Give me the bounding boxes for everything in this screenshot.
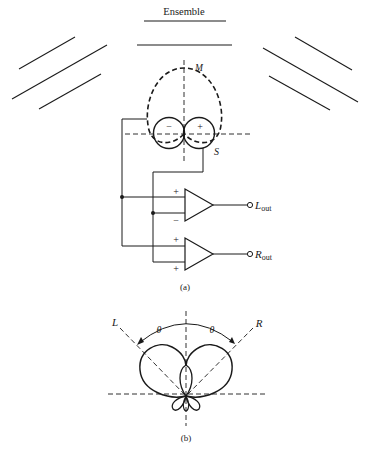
left-main-lobe xyxy=(140,345,186,397)
svg-text:+: + xyxy=(173,186,179,197)
caption-b: (b) xyxy=(181,433,192,443)
matrix-wiring xyxy=(122,119,203,262)
ensemble-label: Ensemble xyxy=(163,6,205,17)
l-out-terminal xyxy=(247,202,252,207)
ms-stereo-diagram: Ensemble − + M S + − xyxy=(0,0,368,449)
left-axis-b xyxy=(120,328,186,396)
r-out-terminal xyxy=(247,251,252,256)
side-label: S xyxy=(214,146,219,157)
amplifier-left: + − Lout xyxy=(173,186,272,226)
theta-left: θ xyxy=(157,324,162,335)
r-out-label: Rout xyxy=(254,248,273,262)
junction-dot-mid xyxy=(120,195,124,199)
caption-a: (a) xyxy=(180,282,190,292)
axis-label-l: L xyxy=(111,316,118,328)
svg-text:+: + xyxy=(173,234,179,245)
junction-dot-side xyxy=(151,211,155,215)
ensemble-right-rows xyxy=(263,37,358,110)
side-lobe-positive-sign: + xyxy=(197,121,203,132)
axis-label-r: R xyxy=(255,317,263,329)
theta-right: θ xyxy=(210,324,215,335)
svg-text:+: + xyxy=(173,263,179,274)
l-out-label: Lout xyxy=(254,199,272,213)
right-axis-b xyxy=(186,328,253,396)
resulting-stereo-pattern: θ θ L R xyxy=(108,311,268,426)
ensemble-left-rows xyxy=(12,37,107,109)
right-main-lobe xyxy=(186,345,232,397)
svg-text:−: − xyxy=(173,215,179,226)
angle-arc xyxy=(139,324,233,343)
arc-arrow-right xyxy=(229,337,235,344)
amplifier-right: + + Rout xyxy=(173,234,273,274)
ms-polar-patterns: − + M S xyxy=(125,60,253,163)
side-lobe-negative-sign: − xyxy=(166,121,172,132)
arc-arrow-left xyxy=(137,337,144,345)
mid-label: M xyxy=(194,63,204,73)
